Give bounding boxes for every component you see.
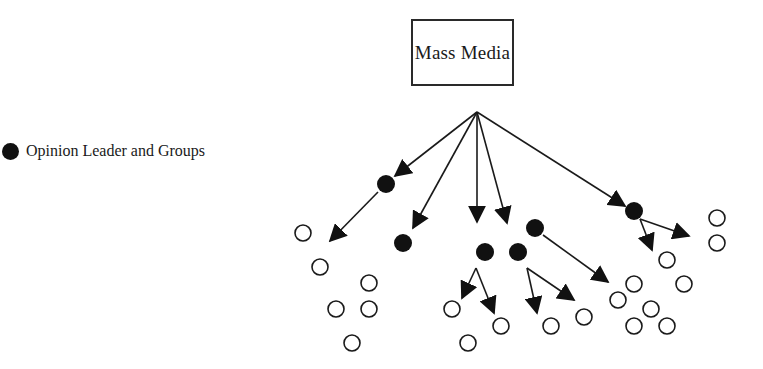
follower-node (659, 318, 675, 334)
follower-node (626, 276, 642, 292)
influence-arrow (413, 112, 477, 228)
influence-arrow (462, 268, 476, 298)
follower-node (460, 335, 476, 351)
follower-node (676, 276, 692, 292)
follower-node (709, 235, 725, 251)
follower-node (295, 225, 311, 241)
opinion-leader-node (377, 175, 395, 193)
follower-node (312, 259, 328, 275)
follower-node (344, 335, 360, 351)
influence-arrow (476, 268, 494, 313)
follower-node (643, 301, 659, 317)
follower-node (626, 318, 642, 334)
opinion-leader-node (526, 219, 544, 237)
follower-node (361, 275, 377, 291)
influence-arrow (330, 192, 378, 241)
opinion-leader-group (377, 175, 643, 261)
follower-node (328, 301, 344, 317)
diffusion-diagram (0, 0, 763, 369)
follower-group (295, 210, 725, 351)
follower-node (361, 301, 377, 317)
follower-node (543, 318, 559, 334)
influence-arrow (527, 268, 574, 300)
influence-arrow (543, 235, 608, 282)
follower-node (610, 292, 626, 308)
follower-node (493, 318, 509, 334)
follower-node (709, 210, 725, 226)
opinion-leader-node (625, 202, 643, 220)
opinion-leader-node (394, 234, 412, 252)
opinion-leader-node (509, 243, 527, 261)
follower-node (576, 309, 592, 325)
influence-arrow (640, 219, 689, 236)
opinion-leader-node (476, 243, 494, 261)
follower-node (444, 301, 460, 317)
influence-arrow (395, 112, 477, 176)
follower-node (659, 252, 675, 268)
influence-arrow (640, 219, 652, 250)
